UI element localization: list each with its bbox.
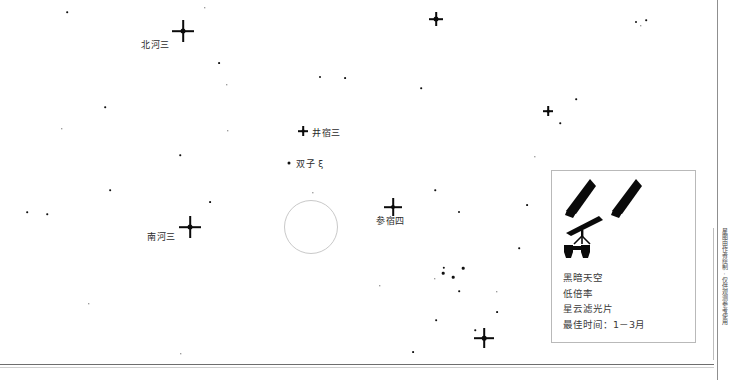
bottom-rule-secondary xyxy=(0,367,714,368)
field-star xyxy=(61,128,62,129)
field-star xyxy=(209,201,211,203)
field-star xyxy=(442,272,445,275)
star-label: 井宿三 xyxy=(312,126,341,139)
field-star xyxy=(226,84,227,85)
field-star xyxy=(218,62,220,64)
field-star xyxy=(443,267,445,269)
field-star xyxy=(204,7,205,8)
field-star xyxy=(104,106,106,108)
field-star xyxy=(458,211,460,213)
field-star xyxy=(559,122,561,124)
star-label: 南河三 xyxy=(147,230,176,243)
field-star xyxy=(575,98,577,100)
legend-line-magnification: 低倍率 xyxy=(563,286,645,302)
field-star xyxy=(518,247,520,249)
legend-line-best-time: 最佳时间：1－3月 xyxy=(563,317,645,333)
margin-vertical-caption: 星图由作者绘制·仅供观测参考使用 xyxy=(720,228,728,325)
observing-legend-box: 黑暗天空 低倍率 星云滤光片 最佳时间：1－3月 xyxy=(551,170,696,343)
star-label: 参宿四 xyxy=(376,214,405,227)
field-star xyxy=(635,21,637,23)
field-star xyxy=(458,290,460,292)
legend-line-filter: 星云滤光片 xyxy=(563,301,645,317)
binoculars-icon xyxy=(563,243,591,261)
field-star xyxy=(26,211,28,213)
telescope-icon xyxy=(561,215,607,245)
field-star xyxy=(66,11,68,13)
field-star xyxy=(645,19,647,21)
deep-sky-object-marker xyxy=(284,200,338,254)
field-star xyxy=(46,213,48,215)
legend-text-block: 黑暗天空 低倍率 星云滤光片 最佳时间：1－3月 xyxy=(563,270,645,332)
star-chart-page: 北河三井宿三双子 ξ南河三参宿四 xyxy=(0,0,731,380)
field-star xyxy=(312,192,313,193)
field-star xyxy=(452,276,455,279)
field-star xyxy=(420,87,422,89)
legend-line-sky-darkness: 黑暗天空 xyxy=(563,270,645,286)
field-star xyxy=(379,285,380,286)
field-star xyxy=(526,204,528,206)
field-star xyxy=(435,319,437,321)
field-star xyxy=(462,267,465,270)
bottom-rule xyxy=(0,364,714,365)
field-star xyxy=(88,303,89,304)
legend-icon-row xyxy=(552,171,695,259)
naked-eye-icon-right xyxy=(610,177,644,221)
field-star xyxy=(434,278,435,279)
field-star xyxy=(344,77,346,79)
field-star xyxy=(474,329,476,331)
field-star xyxy=(534,156,535,157)
labeled-star-dot xyxy=(288,162,291,165)
field-star xyxy=(319,76,321,78)
right-margin-rule xyxy=(717,0,718,380)
star-label: 双子 ξ xyxy=(296,157,324,170)
field-star xyxy=(412,351,414,353)
field-star xyxy=(109,189,111,191)
field-star xyxy=(434,189,436,191)
field-star xyxy=(180,353,181,354)
star-label: 北河三 xyxy=(141,38,170,51)
field-star xyxy=(496,291,497,292)
right-margin-rule-secondary xyxy=(713,228,714,360)
field-star xyxy=(640,25,641,26)
field-star xyxy=(496,311,498,313)
field-star xyxy=(227,130,228,131)
field-star xyxy=(179,154,181,156)
